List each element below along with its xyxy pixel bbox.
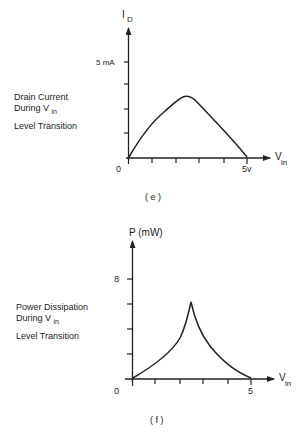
chart-e-y-label-sub: D — [127, 15, 133, 24]
chart-e-curve — [129, 96, 247, 157]
chart-f-x-origin: 0 — [114, 386, 119, 396]
chart-f-y-label: P (mW) — [129, 227, 163, 238]
chart-e-x-ticks — [129, 158, 248, 164]
chart-f-x-end: 5 — [248, 386, 253, 396]
figure-canvas: I D 5 mA 0 5v V in ( e ) P (mW) 8 0 5 — [0, 0, 307, 445]
chart-e-x-origin: 0 — [116, 164, 121, 174]
chart-e: I D 5 mA 0 5v V in ( e ) — [96, 9, 287, 202]
chart-f-caption: ( f ) — [150, 415, 164, 425]
chart-f-curve — [133, 302, 251, 378]
chart-e-x-label-sub: in — [281, 158, 287, 167]
chart-e-y-tick-label: 5 mA — [96, 58, 115, 67]
chart-f: P (mW) 8 0 5 V in ( f ) — [114, 227, 291, 425]
chart-e-caption: ( e ) — [145, 192, 161, 202]
chart-f-x-ticks — [133, 379, 252, 386]
chart-e-y-label: I — [122, 9, 125, 20]
chart-f-y-tick-label: 8 — [114, 274, 119, 284]
chart-e-x-end: 5v — [242, 164, 252, 174]
chart-f-x-label-sub: in — [285, 379, 291, 388]
